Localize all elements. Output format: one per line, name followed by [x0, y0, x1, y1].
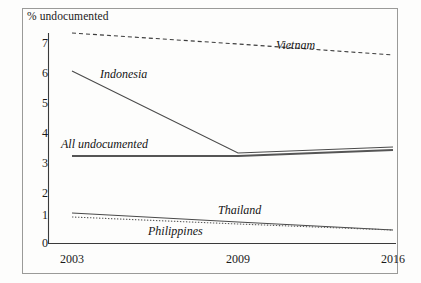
series-line-vietnam [72, 33, 393, 55]
series-line-philippines [72, 217, 393, 230]
chart-figure: % undocumented 7 6 5 4 3 2 1 0 2003 2009… [0, 0, 421, 283]
series-label-thailand: Thailand [218, 203, 261, 218]
series-label-philippines: Philippines [148, 224, 203, 239]
series-label-all-undocumented: All undocumented [61, 137, 148, 152]
series-label-vietnam: Vietnam [276, 38, 315, 53]
series-label-indonesia: Indonesia [100, 67, 147, 82]
